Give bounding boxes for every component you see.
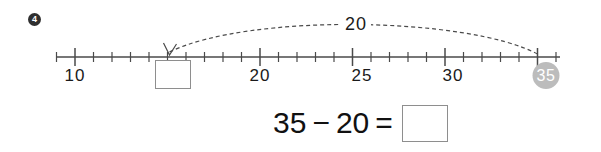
tick-label-25: 25 [352,66,373,86]
minus-sign-icon: − [307,106,335,140]
worksheet-problem: 4 10202530 35 20 35 − 20 = [0,0,601,152]
tick-label-10: 10 [65,66,86,86]
tick-label-30: 30 [443,66,464,86]
number-line-graphic [0,0,601,100]
number-line-endpoint-35: 35 [533,62,560,89]
equation-row: 35 − 20 = [272,103,448,143]
tick-label-20: 20 [250,66,271,86]
equation-answer-box[interactable] [402,105,448,142]
equation-minuend: 35 [272,106,307,140]
equation-subtrahend: 20 [335,106,370,140]
equals-sign-icon: = [370,106,398,140]
number-line-answer-box[interactable] [155,60,191,89]
jump-value-label: 20 [341,14,371,35]
